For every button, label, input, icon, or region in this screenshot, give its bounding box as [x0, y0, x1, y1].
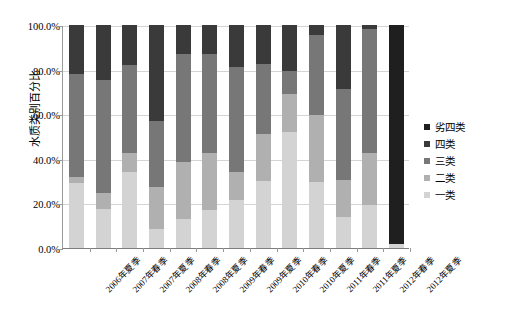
- legend-item[interactable]: 四类: [424, 135, 502, 152]
- legend-swatch-icon: [424, 175, 430, 181]
- legend-swatch-icon: [424, 192, 430, 198]
- stacked-bar-chart: 水质类别百分比 100.0%80.0%60.0%40.0%20.0%0.0% 2…: [0, 0, 505, 325]
- chart-legend: 劣四类四类三类二类一类: [424, 118, 502, 203]
- legend-label: 劣四类: [435, 119, 465, 134]
- legend-swatch-icon: [424, 124, 430, 130]
- legend-swatch-icon: [424, 158, 430, 164]
- legend-label: 二类: [435, 170, 455, 185]
- legend-label: 三类: [435, 153, 455, 168]
- legend-swatch-icon: [424, 141, 430, 147]
- legend-item[interactable]: 三类: [424, 152, 502, 169]
- legend-item[interactable]: 一类: [424, 186, 502, 203]
- legend-item[interactable]: 二类: [424, 169, 502, 186]
- legend-label: 四类: [435, 136, 455, 151]
- legend-item[interactable]: 劣四类: [424, 118, 502, 135]
- legend-label: 一类: [435, 187, 455, 202]
